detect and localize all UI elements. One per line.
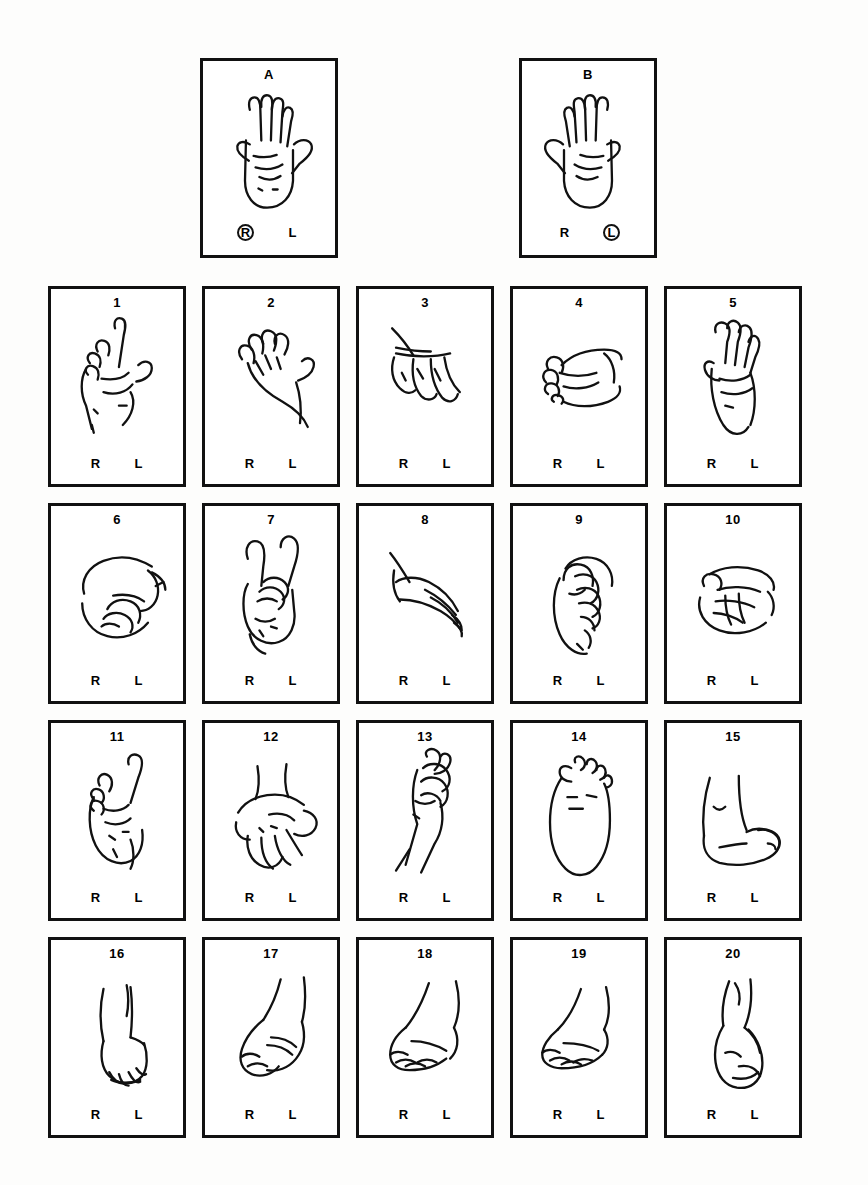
stimulus-card-4[interactable]: 4 RL	[510, 286, 648, 487]
side-mark-right[interactable]: R	[395, 1106, 412, 1123]
side-mark-right[interactable]: R	[703, 1106, 720, 1123]
card-label: 9	[513, 513, 645, 526]
side-mark-right[interactable]: R	[87, 672, 104, 689]
card-footer: RL	[359, 889, 491, 906]
side-mark-left[interactable]: L	[438, 672, 455, 689]
card-label: 2	[205, 296, 337, 309]
side-mark-left[interactable]: L	[746, 889, 763, 906]
card-footer: RL	[359, 455, 491, 472]
foot-drawing-foot-front-view-toes-down	[51, 960, 183, 1105]
hand-drawing-hand-hanging-fingers-down	[359, 309, 491, 454]
test-plate-sheet: A R L	[0, 0, 868, 1185]
card-footer: RL	[205, 889, 337, 906]
side-mark-right[interactable]: R	[549, 889, 566, 906]
side-mark-left[interactable]: L	[284, 455, 301, 472]
side-mark-left[interactable]: L	[130, 455, 147, 472]
card-footer: RL	[51, 889, 183, 906]
hand-drawing-palm-left	[522, 81, 654, 225]
stimulus-card-18[interactable]: 18 RL	[356, 937, 494, 1138]
side-mark-right[interactable]: R	[241, 672, 258, 689]
side-mark-left[interactable]: L	[284, 224, 301, 241]
card-footer: RL	[205, 672, 337, 689]
stimulus-card-7[interactable]: 7 RL	[202, 503, 340, 704]
stimulus-card-2[interactable]: 2 RL	[202, 286, 340, 487]
stimulus-card-6[interactable]: 6 RL	[48, 503, 186, 704]
side-mark-right[interactable]: R	[87, 1106, 104, 1123]
card-footer: RL	[667, 455, 799, 472]
card-footer: RL	[205, 1106, 337, 1123]
side-mark-right[interactable]: R	[549, 1106, 566, 1123]
hand-drawing-fist-horizontal-thumb-up	[667, 526, 799, 671]
stimulus-card-17[interactable]: 17 RL	[202, 937, 340, 1138]
stimulus-card-9[interactable]: 9 RL	[510, 503, 648, 704]
side-mark-right[interactable]: R	[556, 224, 573, 241]
hand-drawing-fist-index-up-thumb-out	[51, 309, 183, 454]
side-mark-right[interactable]: R	[87, 455, 104, 472]
card-footer: RL	[667, 1106, 799, 1123]
side-mark-left[interactable]: L	[130, 889, 147, 906]
stimulus-card-3[interactable]: 3 RL	[356, 286, 494, 487]
card-label: 18	[359, 947, 491, 960]
stimulus-card-8[interactable]: 8 RL	[356, 503, 494, 704]
side-mark-left[interactable]: L	[438, 455, 455, 472]
stimulus-card-16[interactable]: 16 RL	[48, 937, 186, 1138]
card-label: B	[522, 68, 654, 81]
card-label: 7	[205, 513, 337, 526]
side-mark-right[interactable]: R	[241, 889, 258, 906]
hand-drawing-palm-right	[203, 81, 335, 225]
card-footer: R L	[203, 224, 335, 241]
side-mark-left-circled[interactable]: L	[603, 224, 620, 241]
side-mark-left[interactable]: L	[284, 672, 301, 689]
side-mark-right[interactable]: R	[549, 672, 566, 689]
side-mark-left[interactable]: L	[746, 455, 763, 472]
side-mark-right[interactable]: R	[395, 672, 412, 689]
card-label: 15	[667, 730, 799, 743]
side-mark-right[interactable]: R	[241, 455, 258, 472]
hand-drawing-hand-upright-fingers-together	[667, 309, 799, 454]
card-footer: RL	[205, 455, 337, 472]
side-mark-left[interactable]: L	[592, 1106, 609, 1123]
card-label: 16	[51, 947, 183, 960]
side-mark-right[interactable]: R	[241, 1106, 258, 1123]
stimulus-card-14[interactable]: 14 RL	[510, 720, 648, 921]
side-mark-right[interactable]: R	[87, 889, 104, 906]
side-mark-right[interactable]: R	[549, 455, 566, 472]
side-mark-left[interactable]: L	[438, 889, 455, 906]
side-mark-right[interactable]: R	[703, 889, 720, 906]
card-label: A	[203, 68, 335, 81]
hand-drawing-flat-hand-angled-fingers-down-right	[359, 526, 491, 671]
stimulus-card-10[interactable]: 10 RL	[664, 503, 802, 704]
side-mark-left[interactable]: L	[592, 672, 609, 689]
side-mark-right[interactable]: R	[395, 455, 412, 472]
practice-card-b[interactable]: B R L	[519, 58, 657, 258]
side-mark-left[interactable]: L	[592, 889, 609, 906]
stimulus-card-20[interactable]: 20 RL	[664, 937, 802, 1138]
card-footer: RL	[513, 1106, 645, 1123]
stimulus-card-12[interactable]: 12 RL	[202, 720, 340, 921]
side-mark-left[interactable]: L	[130, 672, 147, 689]
side-mark-right[interactable]: R	[703, 455, 720, 472]
side-mark-left[interactable]: L	[438, 1106, 455, 1123]
side-mark-left[interactable]: L	[284, 889, 301, 906]
stimulus-card-1[interactable]: 1 RL	[48, 286, 186, 487]
card-footer: RL	[359, 1106, 491, 1123]
card-footer: RL	[667, 672, 799, 689]
stimulus-card-15[interactable]: 15 RL	[664, 720, 802, 921]
side-mark-left[interactable]: L	[130, 1106, 147, 1123]
card-footer: RL	[513, 889, 645, 906]
practice-card-a[interactable]: A R L	[200, 58, 338, 258]
side-mark-right-circled[interactable]: R	[237, 224, 254, 241]
card-label: 17	[205, 947, 337, 960]
stimulus-card-19[interactable]: 19 RL	[510, 937, 648, 1138]
side-mark-left[interactable]: L	[746, 672, 763, 689]
card-label: 19	[513, 947, 645, 960]
side-mark-left[interactable]: L	[284, 1106, 301, 1123]
side-mark-right[interactable]: R	[395, 889, 412, 906]
stimulus-card-11[interactable]: 11 RL	[48, 720, 186, 921]
side-mark-left[interactable]: L	[592, 455, 609, 472]
side-mark-right[interactable]: R	[703, 672, 720, 689]
stimulus-card-13[interactable]: 13 RL	[356, 720, 494, 921]
stimulus-card-5[interactable]: 5 RL	[664, 286, 802, 487]
side-mark-left[interactable]: L	[746, 1106, 763, 1123]
hand-drawing-curled-hand-thumb-over-fingers	[513, 526, 645, 671]
